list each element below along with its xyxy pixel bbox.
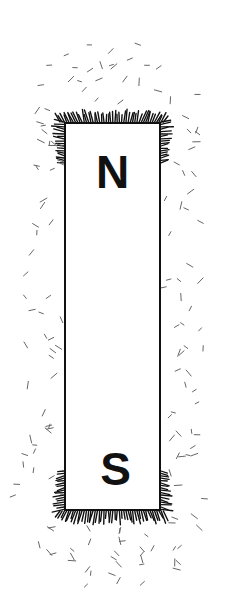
north-pole-label: N (66, 149, 159, 195)
bar-magnet: N S (64, 122, 161, 511)
magnet-diagram: N S (0, 0, 227, 598)
south-pole-label: S (69, 446, 162, 492)
